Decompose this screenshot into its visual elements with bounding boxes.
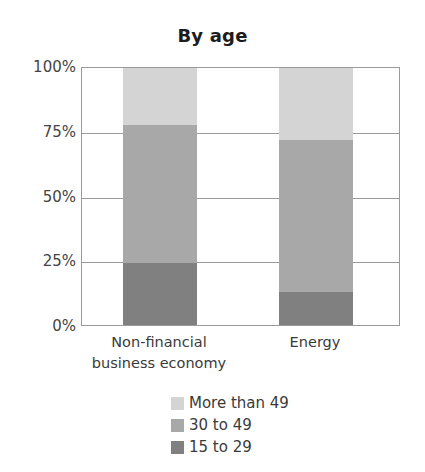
y-axis-tick-label: 0% <box>4 317 76 335</box>
legend-item-label: 15 to 29 <box>189 438 252 456</box>
bar-segment[interactable] <box>279 292 353 325</box>
bar-segment[interactable] <box>279 68 353 140</box>
legend-color-swatch <box>171 419 184 432</box>
y-axis-tick-label: 50% <box>4 188 76 206</box>
bar-segment[interactable] <box>123 263 197 325</box>
plot-area <box>81 67 400 326</box>
legend-item[interactable]: 30 to 49 <box>0 414 425 436</box>
x-axis-category-label: Non-financialbusiness economy <box>69 332 249 374</box>
x-axis-category-label: Energy <box>225 332 405 353</box>
legend-color-swatch <box>171 441 184 454</box>
y-axis: 100%75%50%25%0% <box>0 67 76 326</box>
legend-item[interactable]: More than 49 <box>0 392 425 414</box>
chart-title: By age <box>0 25 425 46</box>
bar-segment[interactable] <box>279 140 353 292</box>
y-axis-tick-label: 25% <box>4 252 76 270</box>
x-axis-category-label-line: Non-financial <box>69 332 249 353</box>
legend-item-label: 30 to 49 <box>189 416 252 434</box>
x-axis: Non-financialbusiness economyEnergy <box>81 332 400 380</box>
x-axis-category-label-line: Energy <box>225 332 405 353</box>
bar-group[interactable] <box>279 68 353 325</box>
legend-item[interactable]: 15 to 29 <box>0 436 425 458</box>
y-axis-tick-label: 75% <box>4 123 76 141</box>
y-axis-tick-label: 100% <box>4 58 76 76</box>
stacked-bar[interactable] <box>279 68 353 325</box>
bar-segment[interactable] <box>123 125 197 264</box>
bar-group[interactable] <box>123 68 197 325</box>
bar-segment[interactable] <box>123 68 197 125</box>
chart-legend: More than 4930 to 4915 to 29 <box>0 392 425 458</box>
legend-item-label: More than 49 <box>189 394 289 412</box>
stacked-bar[interactable] <box>123 68 197 325</box>
x-axis-category-label-line: business economy <box>69 353 249 374</box>
legend-color-swatch <box>171 397 184 410</box>
chart-container: By age 100%75%50%25%0% Non-financialbusi… <box>0 0 425 472</box>
